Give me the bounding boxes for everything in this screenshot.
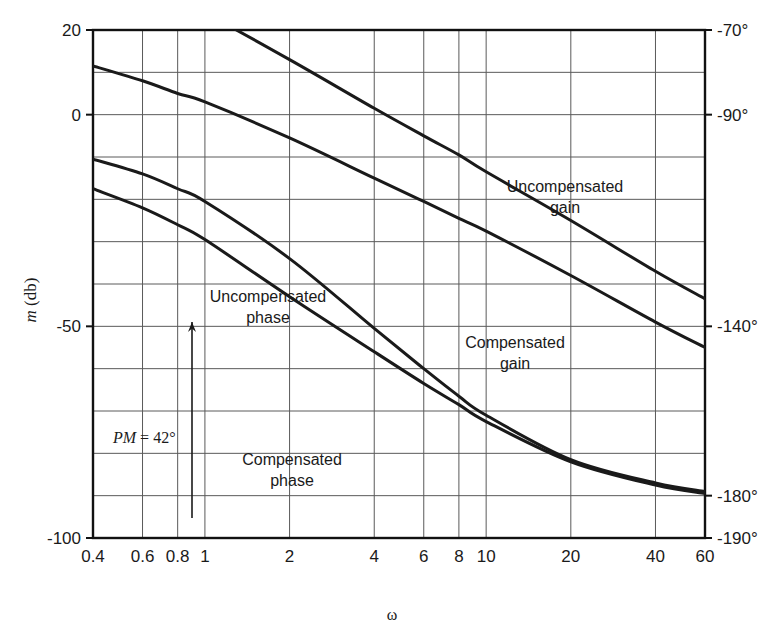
y2tick-label-1: -90°	[717, 106, 748, 125]
y2tick-label-2: -140°	[717, 317, 758, 336]
y2tick-label-0: -70°	[717, 21, 748, 40]
y-axis-title: m (db)	[21, 278, 40, 323]
xtick-label-6: 6	[419, 547, 428, 566]
y2tick-label-3: -180°	[717, 487, 758, 506]
xtick-label-1: 1	[200, 547, 209, 566]
annotation-phase-margin: PM = 42°	[112, 429, 176, 446]
bode-plot-figure: 0.40.60.81246810204060200-50-100-70°-90°…	[0, 0, 778, 636]
xtick-label-20: 20	[561, 547, 580, 566]
ytick-label-0: 20	[62, 21, 81, 40]
x-axis-title: ω	[387, 606, 398, 623]
figure-background	[0, 0, 778, 636]
xtick-label-10: 10	[477, 547, 496, 566]
xtick-label-0.6: 0.6	[131, 547, 155, 566]
xtick-label-8: 8	[454, 547, 463, 566]
ytick-label-1: 0	[72, 106, 81, 125]
bode-plot-svg: 0.40.60.81246810204060200-50-100-70°-90°…	[0, 0, 778, 636]
xtick-label-0.8: 0.8	[166, 547, 190, 566]
ytick-label-2: -50	[56, 317, 81, 336]
xtick-label-4: 4	[370, 547, 379, 566]
xtick-label-60: 60	[696, 547, 715, 566]
xtick-label-0.4: 0.4	[81, 547, 105, 566]
xtick-label-40: 40	[646, 547, 665, 566]
ytick-label-3: -100	[47, 529, 81, 548]
y2tick-label-4: -190°	[717, 529, 758, 548]
xtick-label-2: 2	[285, 547, 294, 566]
